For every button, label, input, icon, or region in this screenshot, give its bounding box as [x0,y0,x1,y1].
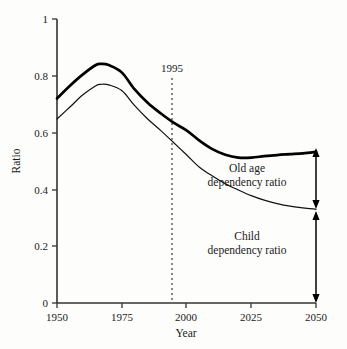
y-tick-label-4: 0.8 [34,70,48,82]
old-age-label-line1: Old age [229,162,265,175]
y-tick-label-2: 0.4 [34,184,48,196]
child-bracket-arrow [312,211,319,303]
y-tick-label-5: 1 [43,13,49,25]
series-line-child-dependency-ratio [57,84,316,209]
x-tick-label-2050: 2050 [305,311,328,323]
chart-page: 1 0.8 0.6 0.4 0.2 0 1950 1975 2000 2025 … [0,0,347,349]
series-line-total-dependency-ratio [57,64,316,158]
dependency-ratio-chart: 1 0.8 0.6 0.4 0.2 0 1950 1975 2000 2025 … [0,0,347,349]
child-label-line1: Child [234,230,260,242]
child-label-line2: dependency ratio [208,244,287,257]
child-arrow-head-up [312,211,319,220]
x-tick-label-1975: 1975 [111,311,134,323]
old-age-label-line2: dependency ratio [208,176,287,189]
y-tick-label-1: 0.2 [34,240,48,252]
y-axis-title: Ratio [10,148,22,173]
y-tick-label-0: 0 [43,297,49,309]
x-tick-label-2000: 2000 [175,311,198,323]
year-marker-label: 1995 [161,62,184,74]
x-axis-title: Year [175,327,196,339]
x-tick-label-2025: 2025 [240,311,263,323]
old-age-bracket-arrow [312,148,319,209]
x-tick-label-1950: 1950 [46,311,69,323]
old-age-arrow-head-down [312,200,319,209]
y-tick-label-3: 0.6 [34,127,48,139]
child-arrow-head-down [312,294,319,303]
